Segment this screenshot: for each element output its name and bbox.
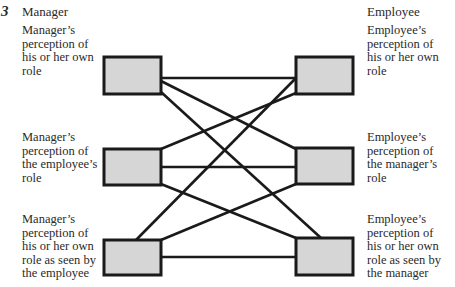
perception-diagram [0,0,455,287]
perception-box-L2 [104,149,161,185]
perception-box-R3 [296,238,353,275]
perception-box-L1 [104,57,161,94]
connector-line-R1-L2 [161,93,296,149]
perception-box-R1 [296,57,353,94]
connector-lines [136,78,321,257]
connector-line-L1-R2 [161,81,296,149]
perception-box-L3 [104,240,161,275]
perception-box-R2 [296,148,353,184]
